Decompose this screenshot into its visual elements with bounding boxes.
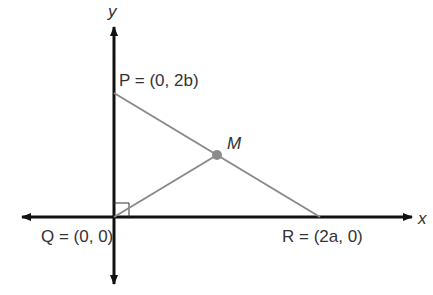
coordinate-diagram: y x P = (0, 2b) Q = (0, 0) R = (2a, 0) M	[0, 0, 433, 295]
point-P-label: P = (0, 2b)	[119, 71, 199, 90]
x-axis-label: x	[417, 209, 427, 228]
point-Q-label: Q = (0, 0)	[41, 227, 113, 246]
point-M-label: M	[227, 134, 242, 153]
y-axis-label: y	[107, 2, 118, 21]
segment-QM	[114, 155, 217, 217]
point-R-label: R = (2a, 0)	[282, 227, 363, 246]
point-M	[212, 150, 222, 160]
